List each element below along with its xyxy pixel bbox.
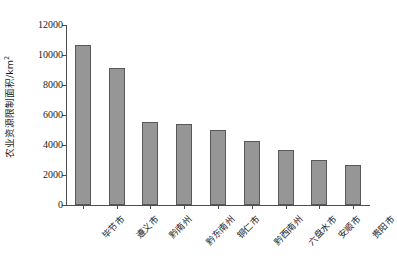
y-tick-label: 0 — [58, 198, 63, 211]
y-tick-label: 10000 — [38, 48, 63, 61]
bar — [142, 122, 158, 205]
y-tick: 0 — [66, 205, 67, 206]
y-tick: 6000 — [66, 115, 67, 116]
x-tick-label: 贵阳市 — [369, 213, 397, 241]
y-tick-label: 8000 — [43, 78, 63, 91]
bar — [278, 150, 294, 205]
x-tick-label: 安顺市 — [335, 213, 363, 241]
x-tick-mark — [83, 206, 84, 209]
x-tick-label: 黔东南州 — [203, 213, 238, 248]
x-tick-label: 铜仁市 — [234, 213, 262, 241]
x-tick-label: 六盘水市 — [304, 213, 339, 248]
bar — [244, 141, 260, 205]
bar — [311, 160, 327, 205]
y-tick: 2000 — [66, 175, 67, 176]
x-tick-label: 黔南州 — [166, 213, 194, 241]
x-tick-label: 毕节市 — [99, 213, 127, 241]
y-axis-title-text: 农业资源限制面积/km2 — [2, 56, 16, 158]
bar — [75, 45, 91, 206]
x-tick-mark — [353, 206, 354, 209]
y-tick-label: 6000 — [43, 108, 63, 121]
x-tick-mark — [117, 206, 118, 209]
x-tick-mark — [319, 206, 320, 209]
y-tick: 8000 — [66, 85, 67, 86]
bar — [345, 165, 361, 206]
y-tick: 4000 — [66, 145, 67, 146]
y-axis-title: 农业资源限制面积/km2 — [0, 0, 18, 214]
y-axis-title-superscript: 2 — [3, 56, 11, 60]
x-tick-mark — [218, 206, 219, 209]
x-tick-label: 黔西南州 — [270, 213, 305, 248]
bar — [109, 68, 125, 205]
bar — [176, 124, 192, 205]
x-tick-mark — [286, 206, 287, 209]
x-tick-mark — [150, 206, 151, 209]
plot-area: 020004000600080001000012000 毕节市遵义市黔南州黔东南… — [66, 25, 370, 206]
x-tick-label: 遵义市 — [133, 213, 161, 241]
y-tick-label: 2000 — [43, 168, 63, 181]
y-tick: 10000 — [66, 55, 67, 56]
y-tick: 12000 — [66, 25, 67, 26]
x-tick-mark — [252, 206, 253, 209]
x-tick-mark — [184, 206, 185, 209]
y-tick-label: 12000 — [38, 18, 63, 31]
y-axis-title-label: 农业资源限制面积/km — [4, 60, 15, 158]
bar — [210, 130, 226, 205]
y-tick-label: 4000 — [43, 138, 63, 151]
